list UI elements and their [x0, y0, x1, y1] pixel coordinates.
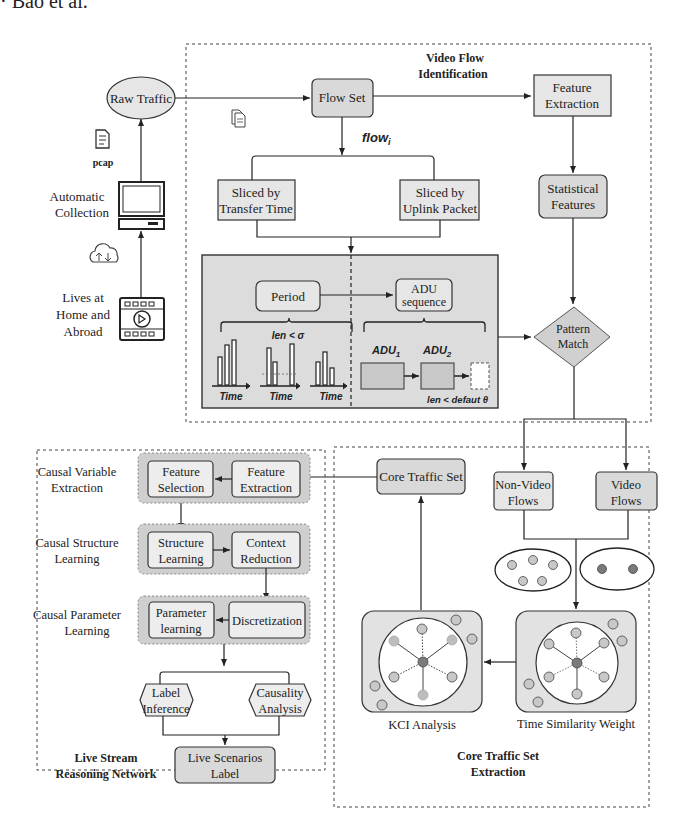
stage1-label-line2: Extraction	[51, 481, 104, 495]
statistical-features-line2: Features	[551, 197, 595, 212]
stage3-label-line1: Causal Parameter	[33, 608, 122, 622]
feature-selection-node[interactable]: Feature Selection	[148, 461, 213, 497]
reasoning-title-line2: Reasoning Network	[56, 767, 157, 781]
feature-extraction-line1: Feature	[553, 80, 592, 95]
documents-icon	[232, 110, 245, 127]
sliced-uplink-line1: Sliced by	[416, 185, 465, 200]
time-similarity-label: Time Similarity Weight	[517, 717, 635, 731]
time-label-3: Time	[319, 391, 343, 402]
raw-traffic-node[interactable]: Raw Traffic	[107, 77, 175, 119]
context-reduction-node[interactable]: Context Reduction	[232, 532, 300, 568]
live-scenarios-line1: Live Scenarios	[188, 751, 263, 765]
automatic-label-line2: Collection	[55, 205, 110, 220]
parameter-learning-line1: Parameter	[156, 606, 208, 620]
period-label: Period	[271, 289, 305, 304]
reasoning-title-line1: Live Stream	[75, 751, 138, 765]
structure-learning-node[interactable]: Structure Learning	[148, 532, 213, 568]
feature-selection-line1: Feature	[162, 465, 200, 479]
non-video-line2: Flows	[508, 494, 539, 508]
reasoning-feature-extraction-line1: Feature	[247, 465, 285, 479]
pattern-match-line1: Pattern	[556, 322, 590, 336]
time-label-2: Time	[269, 391, 293, 402]
feature-extraction-node[interactable]: Feature Extraction	[534, 75, 611, 116]
stage2-label-line1: Causal Structure	[36, 536, 119, 550]
time-label-1: Time	[219, 391, 243, 402]
context-reduction-line1: Context	[246, 536, 286, 550]
sliced-uplink-packet-node[interactable]: Sliced by Uplink Packet	[400, 180, 479, 220]
causality-analysis-line2: Analysis	[258, 702, 302, 716]
lives-label-line1: Lives at	[62, 290, 104, 305]
structure-learning-line1: Structure	[158, 536, 204, 550]
raw-traffic-label: Raw Traffic	[110, 91, 172, 106]
adu-sequence-line1: ADU	[411, 282, 437, 296]
video-line1: Video	[611, 478, 641, 492]
sliced-transfer-time-node[interactable]: Sliced by Transfer Time	[218, 180, 295, 220]
branch-connector	[252, 156, 434, 180]
flow-set-node[interactable]: Flow Set	[312, 79, 373, 117]
label-inference-node[interactable]: Label Inference	[140, 684, 193, 716]
kci-analysis-graph[interactable]	[362, 611, 482, 712]
video-flows-node[interactable]: Video Flows	[596, 472, 657, 510]
adu-next-placeholder	[471, 363, 489, 389]
discretization-node[interactable]: Discretization	[229, 602, 305, 638]
period-node[interactable]: Period	[256, 281, 320, 311]
non-video-flows-node[interactable]: Non-Video Flows	[494, 472, 553, 510]
video-flow-title-line2: Identification	[418, 67, 488, 81]
structure-learning-line2: Learning	[158, 552, 204, 566]
core-traffic-set-label: Core Traffic Set	[379, 469, 463, 484]
reasoning-feature-extraction-node[interactable]: Feature Extraction	[232, 461, 300, 497]
diagram-canvas: · Bao et al. Raw Traffic pcap Automatic …	[0, 0, 699, 820]
len-sigma-label: len < σ	[272, 330, 305, 341]
arrow-pattern-to-video	[574, 419, 626, 470]
feature-extraction-line2: Extraction	[545, 96, 600, 111]
stage3-label-line2: Learning	[64, 624, 110, 638]
core-traffic-set-node[interactable]: Core Traffic Set	[377, 459, 465, 494]
automatic-label-line1: Automatic	[50, 189, 105, 204]
header-fragment: · Bao et al.	[0, 0, 88, 12]
computer-icon[interactable]	[119, 182, 164, 229]
context-reduction-line2: Reduction	[240, 552, 292, 566]
sliced-time-line1: Sliced by	[232, 185, 281, 200]
reasoning-feature-extraction-line2: Extraction	[240, 481, 293, 495]
adu1-block	[361, 363, 404, 389]
pcap-label: pcap	[93, 157, 114, 168]
stage2-label-line2: Learning	[54, 552, 100, 566]
causality-analysis-line1: Causality	[256, 686, 304, 700]
label-inference-line1: Label	[152, 686, 181, 700]
live-scenarios-label-node[interactable]: Live Scenarios Label	[175, 747, 275, 783]
inference-merge-connector	[163, 716, 279, 735]
flow-set-label: Flow Set	[319, 90, 366, 105]
live-scenarios-line2: Label	[211, 767, 240, 781]
inference-branch-connector	[160, 672, 289, 684]
video-cluster	[580, 548, 654, 590]
adu-sequence-line2: sequence	[402, 295, 446, 309]
sliced-uplink-line2: Uplink Packet	[403, 201, 477, 216]
arrow-pattern-to-nonvideo	[524, 367, 574, 470]
adu-sequence-node[interactable]: ADU sequence	[396, 279, 452, 311]
lives-label-line2: Home and	[56, 307, 110, 322]
merge-connector	[257, 220, 440, 237]
lives-label-line3: Abroad	[64, 324, 103, 339]
core-traffic-title-line1: Core Traffic Set	[457, 749, 539, 763]
parameter-learning-line2: learning	[161, 622, 203, 636]
label-inference-line2: Inference	[142, 702, 190, 716]
stage1-label-line1: Causal Variable	[38, 465, 117, 479]
discretization-label: Discretization	[232, 614, 303, 628]
non-video-cluster	[495, 549, 571, 591]
adu2-block	[421, 363, 454, 389]
pattern-match-node[interactable]: Pattern Match	[534, 307, 610, 367]
sliced-time-line2: Transfer Time	[219, 201, 293, 216]
non-video-line1: Non-Video	[495, 478, 551, 492]
core-traffic-title-line2: Extraction	[471, 765, 526, 779]
video-line2: Flows	[611, 494, 642, 508]
kci-analysis-label: KCI Analysis	[388, 718, 456, 732]
video-player-icon[interactable]	[120, 298, 164, 340]
feature-selection-line2: Selection	[158, 481, 205, 495]
video-flow-title-line1: Video Flow	[426, 51, 484, 65]
causality-analysis-node[interactable]: Causality Analysis	[249, 684, 311, 716]
statistical-features-node[interactable]: Statistical Features	[539, 175, 607, 218]
pattern-match-line2: Match	[558, 337, 589, 351]
time-similarity-graph[interactable]	[516, 611, 636, 712]
statistical-features-line1: Statistical	[547, 181, 599, 196]
parameter-learning-node[interactable]: Parameter learning	[149, 602, 214, 638]
